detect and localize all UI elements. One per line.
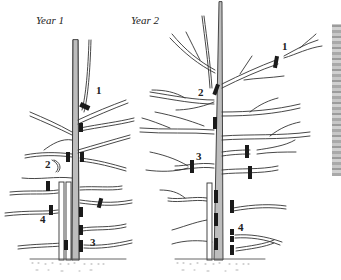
year1-marker-2: 2	[45, 158, 51, 170]
year2-marker-2: 2	[198, 86, 204, 98]
year1-label: Year 1	[36, 14, 64, 26]
year2-marker-3: 3	[196, 150, 202, 162]
year2-tree	[140, 2, 322, 260]
gray-texture-strip	[332, 24, 341, 176]
year1-marker-1: 1	[96, 84, 102, 96]
year1-marker-3: 3	[90, 236, 96, 248]
year1-tree	[5, 40, 134, 260]
year1-marker-4: 4	[40, 213, 46, 225]
ground	[30, 259, 265, 271]
year2-marker-4: 4	[238, 221, 244, 233]
pruning-diagram	[0, 0, 341, 280]
year2-marker-1: 1	[282, 40, 288, 52]
year2-label: Year 2	[131, 14, 159, 26]
